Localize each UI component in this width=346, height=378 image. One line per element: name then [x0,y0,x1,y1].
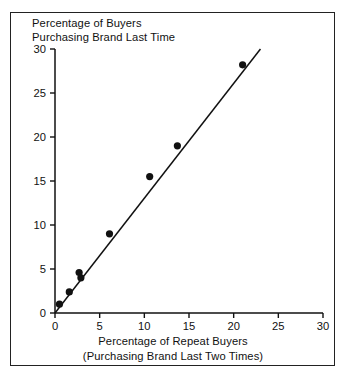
x-tick-label: 10 [138,320,150,332]
y-tick-label: 20 [34,131,46,143]
x-tick-label: 5 [97,320,103,332]
fit-line-segment [55,49,260,313]
y-tick-label: 25 [34,87,46,99]
axis-group [55,49,323,313]
x-axis-label: Percentage of Repeat Buyers (Purchasing … [0,334,346,364]
data-point [77,274,84,281]
data-point [56,301,63,308]
regression-line [55,49,260,313]
y-tick-label: 5 [40,263,46,275]
data-points [56,61,246,308]
y-tick-label: 15 [34,175,46,187]
scatter-plot: 051015202530 051015202530 [0,0,346,378]
data-point [66,288,73,295]
data-point [146,173,153,180]
y-tick-label: 30 [34,43,46,55]
data-point [239,61,246,68]
y-tick-label: 10 [34,219,46,231]
data-point [106,230,113,237]
x-axis-label-line-1: Percentage of Repeat Buyers [0,334,346,349]
y-axis-ticks: 051015202530 [34,43,55,319]
x-axis-label-line-2: (Purchasing Brand Last Two Times) [0,349,346,364]
data-point [174,142,181,149]
x-axis-ticks: 051015202530 [52,313,329,332]
figure-container: Percentage of Buyers Purchasing Brand La… [0,0,346,378]
x-tick-label: 20 [227,320,239,332]
x-tick-label: 0 [52,320,58,332]
y-tick-label: 0 [40,307,46,319]
x-tick-label: 25 [272,320,284,332]
x-tick-label: 15 [183,320,195,332]
x-tick-label: 30 [317,320,329,332]
